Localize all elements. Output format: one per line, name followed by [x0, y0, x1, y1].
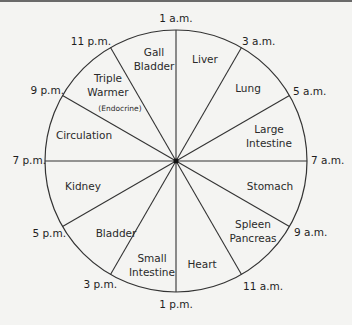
organ-label: GallBladder — [134, 46, 175, 72]
organ-label: Kidney — [65, 180, 101, 192]
time-label: 3 p.m. — [83, 278, 117, 290]
organ-label: Heart — [187, 258, 216, 270]
organ-label: Lung — [235, 82, 261, 94]
organ-label: SmallIntestine — [129, 252, 175, 278]
time-label: 11 a.m. — [243, 280, 283, 292]
organ-label: Bladder — [96, 227, 137, 239]
organ-label: LargeIntestine — [246, 123, 292, 149]
time-label: 5 a.m. — [293, 85, 326, 97]
time-label: 1 p.m. — [159, 298, 193, 310]
time-label: 7 p.m. — [12, 154, 46, 166]
organ-label: TripleWarmer — [87, 72, 129, 98]
organ-label: Liver — [192, 53, 218, 65]
time-label: 5 p.m. — [32, 227, 66, 239]
time-label: 11 p.m. — [71, 35, 111, 47]
time-label: 1 a.m. — [159, 12, 192, 24]
time-label: 7 a.m. — [311, 154, 344, 166]
center-point — [174, 159, 179, 164]
time-label: 3 a.m. — [242, 35, 275, 47]
organ-label: Circulation — [56, 129, 112, 141]
organ-clock-diagram: 1 a.m.3 a.m.5 a.m.7 a.m.9 a.m.11 a.m.1 p… — [0, 0, 352, 325]
time-label: 9 a.m. — [294, 226, 327, 238]
time-label: 9 p.m. — [30, 84, 64, 96]
organ-label: Stomach — [247, 180, 293, 192]
endocrine-note: (Endocrine) — [98, 104, 141, 113]
organ-label: SpleenPancreas — [229, 218, 276, 244]
